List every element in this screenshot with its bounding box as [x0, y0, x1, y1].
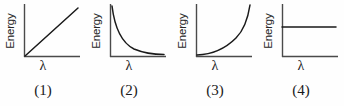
energy-wavelength-figure: Energy λ (1) Energy λ (2) Energy λ (3): [0, 0, 344, 106]
graph-panel-4: Energy λ (4): [258, 0, 344, 106]
panel-caption-1: (1): [0, 82, 86, 99]
x-axis-label-3: λ: [172, 58, 258, 74]
graph-panel-1: Energy λ (1): [0, 0, 86, 106]
curve-linear-increasing: [25, 8, 78, 56]
x-axis-label-4: λ: [258, 58, 344, 74]
x-axis-label-2: λ: [86, 58, 172, 74]
x-axis-label-1: λ: [0, 58, 86, 74]
graph-panel-3: Energy λ (3): [172, 0, 258, 106]
curve-exponential-increasing: [197, 5, 250, 55]
panel-caption-4: (4): [258, 82, 344, 99]
panel-caption-2: (2): [86, 82, 172, 99]
panel-caption-3: (3): [172, 82, 258, 99]
curve-inverse-decreasing: [112, 6, 164, 55]
graph-panel-2: Energy λ (2): [86, 0, 172, 106]
